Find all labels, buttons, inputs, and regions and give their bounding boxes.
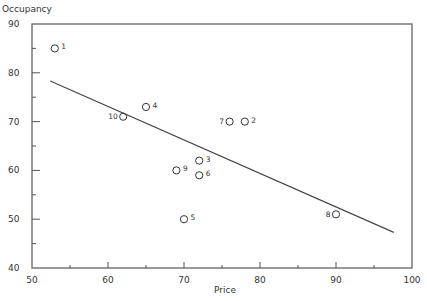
scatter-chart: Occupancy Price 506070809010040506070809… [0, 0, 427, 301]
circle-marker-icon [226, 118, 233, 125]
point-label: 6 [206, 169, 211, 178]
x-tick-label: 50 [26, 275, 38, 285]
circle-marker-icon [196, 172, 203, 179]
point-label: 10 [108, 112, 118, 121]
y-tick-label: 60 [8, 165, 20, 175]
y-tick-label: 90 [8, 19, 20, 29]
point-label: 5 [191, 213, 196, 222]
circle-marker-icon [51, 45, 58, 52]
data-point: 6 [196, 169, 211, 179]
x-tick-label: 90 [330, 275, 342, 285]
point-label: 7 [219, 117, 224, 126]
circle-marker-icon [180, 216, 187, 223]
x-tick-label: 80 [254, 275, 266, 285]
data-point: 7 [219, 117, 233, 126]
data-point: 8 [326, 210, 340, 219]
x-tick-label: 60 [102, 275, 114, 285]
regression-line-path [50, 81, 394, 232]
data-point: 4 [142, 101, 157, 111]
point-label: 4 [153, 101, 158, 110]
circle-marker-icon [196, 157, 203, 164]
data-point: 9 [173, 164, 188, 174]
axes: 5060708090100405060708090 [8, 19, 421, 285]
x-tick-label: 70 [178, 275, 190, 285]
point-label: 1 [61, 42, 66, 51]
circle-marker-icon [142, 103, 149, 110]
regression-line [50, 81, 394, 232]
y-tick-label: 40 [8, 263, 20, 273]
circle-marker-icon [120, 113, 127, 120]
circle-marker-icon [173, 167, 180, 174]
plot-area: 5060708090100405060708090 12345678910 [0, 0, 427, 301]
y-tick-label: 80 [8, 68, 20, 78]
data-point: 10 [108, 112, 127, 121]
circle-marker-icon [241, 118, 248, 125]
data-point: 5 [180, 213, 195, 223]
data-point: 3 [196, 155, 211, 165]
point-label: 9 [183, 164, 188, 173]
point-label: 2 [251, 116, 256, 125]
x-tick-label: 100 [403, 275, 420, 285]
data-point: 2 [241, 116, 256, 126]
point-label: 3 [206, 155, 211, 164]
y-tick-label: 50 [8, 214, 20, 224]
data-points: 12345678910 [51, 42, 339, 222]
data-point: 1 [51, 42, 66, 52]
plot-frame [32, 24, 412, 268]
circle-marker-icon [332, 211, 339, 218]
y-tick-label: 70 [8, 117, 20, 127]
point-label: 8 [326, 210, 331, 219]
